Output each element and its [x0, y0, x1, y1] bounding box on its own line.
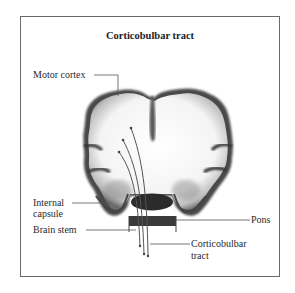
- pons-bar: [129, 216, 176, 226]
- label-pons: Pons: [251, 214, 270, 225]
- label-corticobulbar-1: Corticobulbar: [191, 238, 247, 249]
- label-internal-capsule-1: Internal: [33, 197, 64, 208]
- label-internal-capsule-2: capsule: [33, 208, 63, 219]
- label-brain-stem: Brain stem: [33, 224, 77, 235]
- label-motor-cortex: Motor cortex: [33, 69, 86, 80]
- label-corticobulbar-2: tract: [191, 250, 209, 261]
- brain-illustration: [0, 0, 295, 293]
